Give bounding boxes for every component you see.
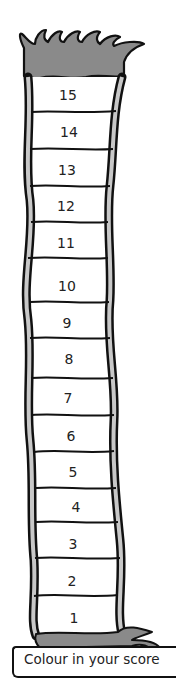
rung-13[interactable]: 13 bbox=[58, 162, 76, 178]
rung-12[interactable]: 12 bbox=[57, 198, 75, 214]
rung-2[interactable]: 2 bbox=[68, 573, 77, 589]
rung-15[interactable]: 15 bbox=[59, 87, 77, 103]
rung-6[interactable]: 6 bbox=[67, 428, 76, 444]
rung-7[interactable]: 7 bbox=[64, 390, 73, 406]
rung-5[interactable]: 5 bbox=[69, 464, 78, 480]
rung-1[interactable]: 1 bbox=[70, 610, 79, 626]
score-ladder: 15 14 13 12 11 10 9 8 7 6 5 4 3 2 1 bbox=[0, 0, 179, 695]
score-label: Colour in your score bbox=[24, 651, 160, 667]
rung-4[interactable]: 4 bbox=[72, 499, 81, 515]
rung-11[interactable]: 11 bbox=[57, 235, 75, 251]
rung-3[interactable]: 3 bbox=[69, 536, 78, 552]
rung-8[interactable]: 8 bbox=[65, 351, 74, 367]
rung-10[interactable]: 10 bbox=[58, 278, 76, 294]
top-grass-tuft bbox=[20, 30, 144, 78]
rung-14[interactable]: 14 bbox=[60, 124, 78, 140]
rung-9[interactable]: 9 bbox=[63, 315, 72, 331]
